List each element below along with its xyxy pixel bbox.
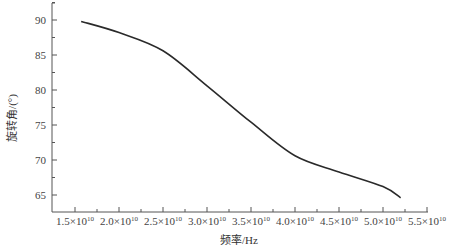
x-tick-label: 2.0×1010	[100, 215, 138, 227]
x-tick-label: 3.0×1010	[188, 215, 226, 227]
rotation-angle-chart: 1.5×10102.0×10102.5×10103.0×10103.5×1010…	[0, 0, 454, 252]
y-tick-label: 65	[35, 189, 47, 201]
axes	[52, 3, 428, 212]
x-tick-label: 3.5×1010	[232, 215, 270, 227]
x-tick-label: 4.0×1010	[276, 215, 314, 227]
x-tick-label: 5.5×1010	[408, 215, 446, 227]
y-axis-title: 旋转角/(°)	[5, 94, 19, 142]
rotation-angle-curve	[81, 21, 400, 197]
x-axis-ticks: 1.5×10102.0×10102.5×10103.0×10103.5×1010…	[56, 207, 446, 227]
y-tick-label: 75	[35, 119, 47, 131]
x-tick-label: 5.0×1010	[364, 215, 402, 227]
y-axis-ticks: 657075808590	[35, 3, 57, 202]
x-tick-label: 2.5×1010	[144, 215, 182, 227]
x-tick-label: 4.5×1010	[320, 215, 358, 227]
y-tick-label: 70	[35, 154, 47, 166]
x-axis-title: 频率/Hz	[220, 233, 258, 246]
y-tick-label: 80	[35, 84, 47, 96]
y-tick-label: 85	[35, 49, 47, 61]
x-tick-label: 1.5×1010	[56, 215, 94, 227]
y-tick-label: 90	[35, 14, 47, 26]
